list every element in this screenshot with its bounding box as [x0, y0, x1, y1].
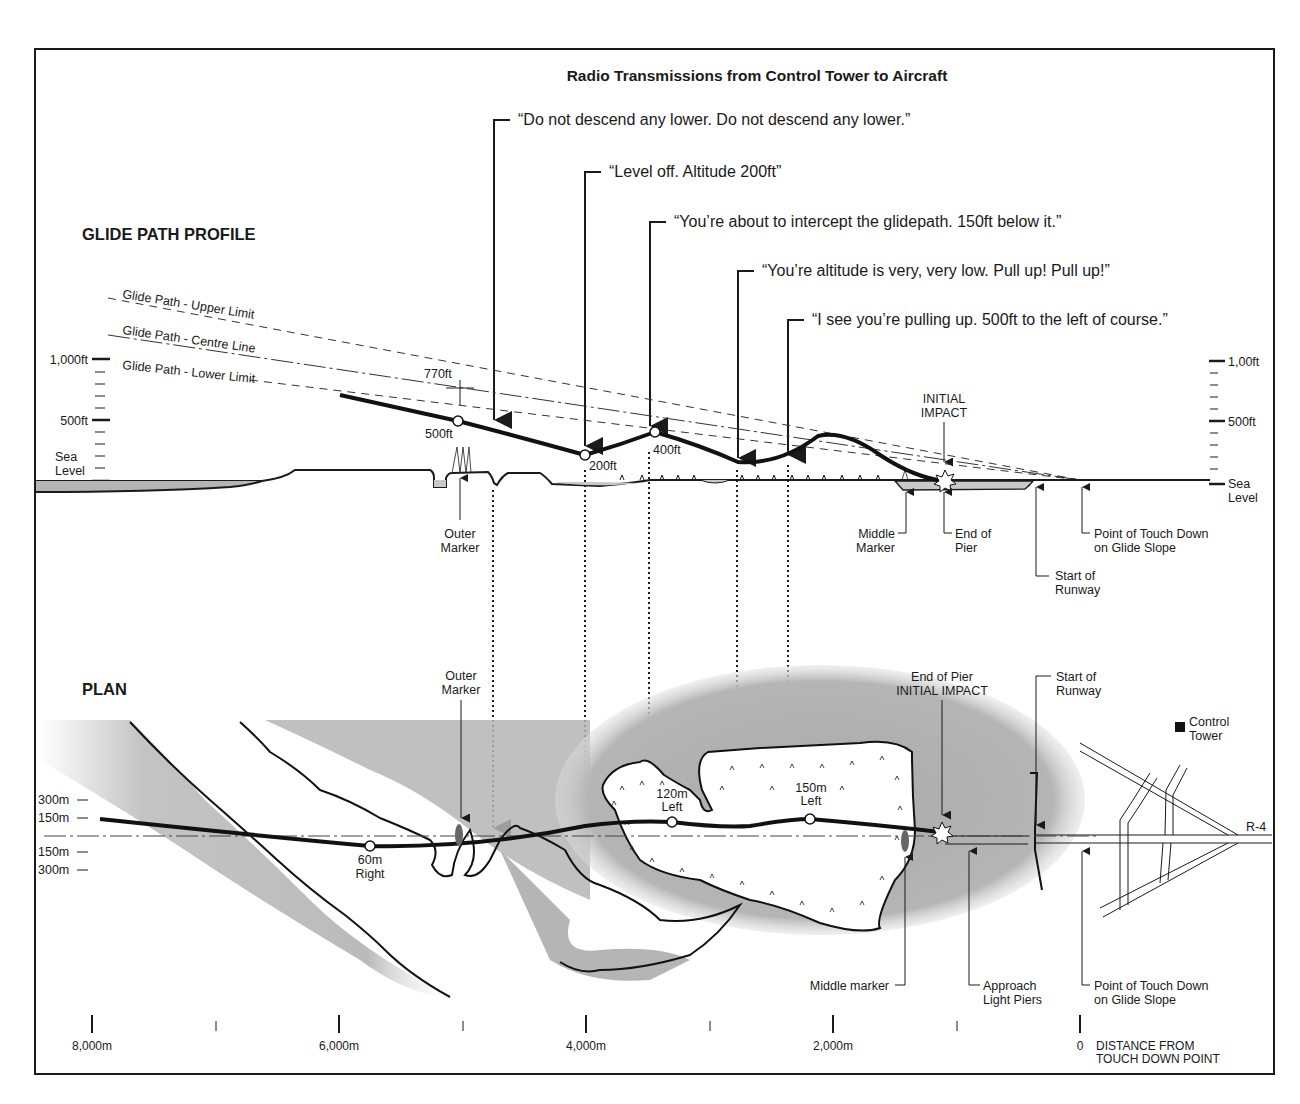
transmission-4: “You’re altitude is very, very low. Pull… [762, 262, 1110, 279]
plan-outer-marker-icon [455, 824, 463, 846]
profile-terrain [36, 447, 1210, 492]
glide-centre-label: Glide Path - Centre Line [122, 323, 257, 356]
diagram-title: Radio Transmissions from Control Tower t… [567, 67, 948, 84]
profile-middle-marker-2: Marker [856, 541, 895, 555]
profile-initial-impact-1: INITIAL [923, 392, 965, 406]
plan-outer-marker-1: Outer [445, 669, 476, 683]
transmission-2: “Level off. Altitude 200ft” [609, 163, 781, 180]
label-left-150: Left [801, 794, 822, 808]
point-400ft [650, 427, 660, 437]
label-right: Right [355, 867, 385, 881]
plan-outer-marker-2: Marker [442, 683, 481, 697]
plan-end-pier-2: INITIAL IMPACT [896, 684, 988, 698]
profile-middle-marker-1: Middle [858, 527, 895, 541]
profile-start-runway-2: Runway [1055, 583, 1101, 597]
point-150m-left [805, 814, 815, 824]
plan-touch-down-1: Point of Touch Down [1094, 979, 1208, 993]
plan-end-pier-1: End of Pier [911, 670, 973, 684]
distance-6000m: 6,000m [319, 1039, 359, 1053]
glide-lower-label: Glide Path - Lower Limit [122, 358, 257, 386]
plan-approach-piers-1: Approach [983, 979, 1037, 993]
plan-axis-300m-bottom: 300m [38, 863, 69, 877]
distance-caption-2: TOUCH DOWN POINT [1096, 1052, 1220, 1066]
axis-right-1000ft: 1,00ft [1228, 355, 1260, 369]
label-left-120: Left [662, 800, 683, 814]
plan-middle-marker: Middle marker [810, 979, 889, 993]
plan-middle-marker-icon [901, 830, 909, 852]
control-tower-icon [1175, 722, 1185, 732]
plan-axis-150m-top: 150m [38, 811, 69, 825]
profile-outer-marker-2: Marker [441, 541, 480, 555]
axis-left-500ft: 500ft [60, 414, 88, 428]
profile-touch-down-2: on Glide Slope [1094, 541, 1176, 555]
label-770ft: 770ft [424, 367, 452, 381]
label-200ft: 200ft [589, 459, 617, 473]
plan-axis-150m-bottom: 150m [38, 845, 69, 859]
distance-axis [92, 1015, 1080, 1033]
profile-axis-left [92, 359, 110, 481]
profile-initial-impact-2: IMPACT [921, 406, 968, 420]
section-title-profile: GLIDE PATH PROFILE [82, 225, 256, 243]
plan-start-runway-1: Start of [1056, 670, 1097, 684]
transmission-5: “I see you’re pulling up. 500ft to the l… [812, 311, 1168, 328]
profile-start-runway-1: Start of [1055, 569, 1096, 583]
point-60m-right [365, 841, 375, 851]
label-400ft: 400ft [653, 443, 681, 457]
section-title-plan: PLAN [82, 680, 127, 698]
point-120m-left [667, 817, 677, 827]
label-500ft: 500ft [425, 427, 453, 441]
label-120m: 120m [656, 787, 687, 801]
plan-approach-piers-2: Light Piers [983, 993, 1042, 1007]
plan-control-tower-1: Control [1189, 715, 1229, 729]
axis-left-level: Level [55, 464, 85, 478]
plan-touch-down-2: on Glide Slope [1094, 993, 1176, 1007]
distance-2000m: 2,000m [813, 1039, 853, 1053]
runway-r4-label: R-4 [1246, 820, 1266, 834]
profile-outer-marker-1: Outer [444, 527, 475, 541]
label-60m: 60m [358, 853, 382, 867]
axis-left-sea: Sea [55, 450, 77, 464]
distance-4000m: 4,000m [566, 1039, 606, 1053]
distance-8000m: 8,000m [72, 1039, 112, 1053]
transmission-1: “Do not descend any lower. Do not descen… [518, 111, 910, 128]
axis-right-500ft: 500ft [1228, 415, 1256, 429]
label-150m: 150m [795, 781, 826, 795]
axis-right-sea: Sea [1228, 477, 1250, 491]
profile-end-pier-1: End of [955, 527, 992, 541]
profile-touch-down-1: Point of Touch Down [1094, 527, 1208, 541]
transmission-3: “You’re about to intercept the glidepath… [674, 213, 1061, 230]
distance-0: 0 [1077, 1039, 1084, 1053]
glide-path-diagram: Radio Transmissions from Control Tower t… [0, 0, 1300, 1104]
axis-left-1000ft: 1,000ft [50, 353, 89, 367]
axis-right-level: Level [1228, 491, 1258, 505]
profile-axis-right [1209, 361, 1225, 484]
plan-control-tower-2: Tower [1189, 729, 1222, 743]
point-500ft [453, 416, 463, 426]
distance-caption-1: DISTANCE FROM [1096, 1039, 1194, 1053]
plan-axis [77, 800, 88, 870]
profile-end-pier-2: Pier [955, 541, 977, 555]
plan-start-runway-2: Runway [1056, 684, 1102, 698]
plan-axis-300m-top: 300m [38, 793, 69, 807]
